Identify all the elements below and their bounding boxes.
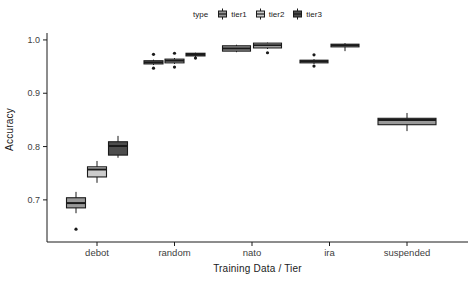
boxplot-figure: type tier1tier2tier3 Accuracy 1.00.90.80…: [0, 0, 472, 286]
x-tick-label: ira: [324, 247, 335, 258]
outlier-point: [152, 67, 155, 70]
outlier-point: [312, 53, 315, 56]
outlier-point: [266, 51, 269, 54]
y-tick-label: 0.7: [27, 195, 40, 205]
outlier-point: [173, 52, 176, 55]
outlier-point: [152, 53, 155, 56]
outlier-point: [312, 64, 315, 67]
box-debot-tier3: [109, 142, 128, 155]
y-tick-label: 0.8: [27, 142, 40, 152]
x-tick-label: suspended: [384, 247, 430, 258]
boxplot-chart: 1.00.90.80.7debotrandomnatoirasuspended: [0, 0, 472, 286]
y-tick-label: 1.0: [27, 35, 40, 45]
outlier-point: [173, 66, 176, 69]
x-axis-title: Training Data / Tier: [47, 263, 468, 274]
outlier-point: [194, 56, 197, 59]
outlier-point: [74, 228, 77, 231]
x-tick-label: random: [158, 247, 190, 258]
y-tick-label: 0.9: [27, 88, 40, 98]
x-tick-label: nato: [243, 247, 262, 258]
box-debot-tier2: [88, 167, 107, 177]
x-tick-label: debot: [85, 247, 109, 258]
